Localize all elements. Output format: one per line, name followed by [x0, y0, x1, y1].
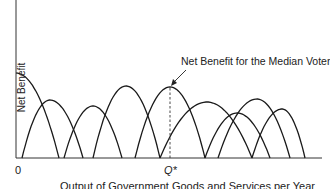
voter-curve: [64, 106, 122, 158]
net-benefit-chart: [0, 0, 330, 189]
median-voter-annotation: Net Benefit for the Median Voter: [181, 55, 330, 67]
voter-curves: [16, 73, 305, 158]
x-axis-label: Output of Government Goods and Services …: [60, 180, 315, 189]
voter-curve: [160, 102, 252, 158]
y-axis-label: Net Benefit: [16, 53, 27, 123]
voter-curve: [218, 99, 290, 158]
origin-label: 0: [15, 164, 21, 176]
voter-curve: [93, 86, 160, 158]
q-star-label: Q*: [164, 164, 177, 176]
